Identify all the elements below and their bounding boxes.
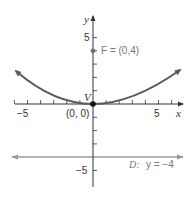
parabola-chart: y x −5 5 5 −5 F = (0,4) V (0, 0) D: y = … [0,0,193,197]
y-tick-label-pos5: 5 [84,32,90,43]
directrix-letter: D: [128,159,140,170]
x-axis-label: x [175,107,181,119]
focus-point [91,48,96,53]
y-axis-label: y [83,13,89,25]
x-tick-label-pos5: 5 [154,108,160,119]
x-tick-label-neg5: −5 [17,108,29,119]
y-tick-label-neg5: −5 [76,165,88,176]
directrix-equation: y = −4 [146,159,174,170]
vertex-label: V [84,91,92,103]
origin-label: (0, 0) [66,108,89,119]
focus-label: F = (0,4) [101,45,139,56]
parabola-curve [16,70,180,104]
vertex-point [90,101,96,107]
